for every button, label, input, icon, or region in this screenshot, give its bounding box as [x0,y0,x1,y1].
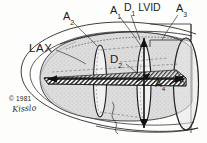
label-a4: A4 [155,79,165,89]
label-a1: A1 [110,5,121,16]
label-a4-letter: A [155,78,162,89]
label-lax: LAX [29,43,53,55]
label-a1-subscript: 1 [117,13,121,20]
label-a3-subscript: 3 [183,11,187,18]
label-d2: D2 [110,54,122,66]
label-d1-subscript: 1 [132,10,136,17]
label-a4-subscript: 4 [162,85,165,92]
copyright-notice: © 1981 [9,96,31,103]
label-d1-letter: D [124,1,132,13]
ellipsoid-ventricle-diagram [0,0,207,143]
label-d1-lvid: D1 LVID [124,2,161,13]
label-a3: A3 [176,3,187,14]
label-a2-subscript: 2 [70,19,74,26]
label-a2: A2 [63,11,74,22]
figure-canvas: A2 A1 D1 LVID A3 LAX D2 A4 © 1981 Kisslo [0,0,207,143]
label-d2-subscript: 2 [118,62,122,70]
artist-signature: Kisslo [12,104,37,114]
label-lvid-text: LVID [138,1,161,13]
